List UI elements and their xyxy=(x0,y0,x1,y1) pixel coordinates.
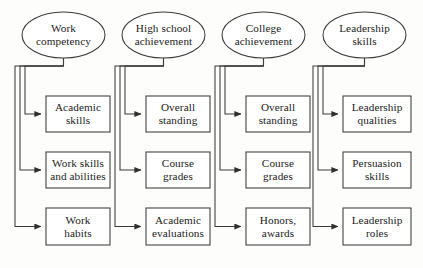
node-box-overall-standing-hs[interactable] xyxy=(146,96,210,132)
node-box-work-habits[interactable] xyxy=(46,208,110,245)
node-box-academic-skills[interactable] xyxy=(46,96,110,132)
node-box-work-skills-and-abilities[interactable] xyxy=(46,152,110,188)
connector-col1-branch3 xyxy=(15,58,64,227)
connector-col3-branch3 xyxy=(215,58,264,227)
node-box-course-grades-hs[interactable] xyxy=(146,152,210,188)
node-box-leadership-qualities[interactable] xyxy=(343,96,411,132)
node-box-academic-evaluations[interactable] xyxy=(146,208,210,245)
node-ellipse-work-competency[interactable] xyxy=(22,12,105,58)
connector-col2-branch3 xyxy=(115,58,164,227)
connector-col4-branch3 xyxy=(313,58,365,227)
node-box-persuasion-skills[interactable] xyxy=(343,152,411,188)
node-box-overall-standing-college[interactable] xyxy=(246,96,310,132)
node-box-honors-awards[interactable] xyxy=(246,208,310,245)
diagram-vector-layer xyxy=(0,0,423,268)
node-ellipse-college-achievement[interactable] xyxy=(222,12,305,58)
diagram-canvas: Work competency Academic skills Work ski… xyxy=(0,0,423,268)
node-ellipse-high-school-achievement[interactable] xyxy=(122,12,205,58)
node-ellipse-leadership-skills[interactable] xyxy=(323,12,406,58)
node-box-leadership-roles[interactable] xyxy=(343,208,411,245)
node-box-course-grades-college[interactable] xyxy=(246,152,310,188)
